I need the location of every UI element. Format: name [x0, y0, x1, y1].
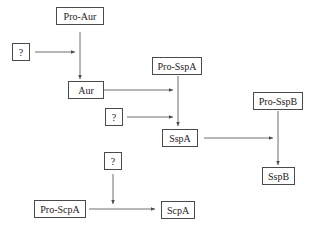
node-pro-aur: Pro-Aur — [56, 7, 104, 25]
node-sspa: SspA — [162, 129, 198, 147]
node-unknown-3: ? — [104, 152, 122, 170]
node-scpa: ScpA — [161, 201, 195, 219]
node-pro-sspb: Pro-SspB — [253, 92, 303, 110]
node-pro-sspa: Pro-SspA — [152, 57, 202, 75]
node-unknown-2: ? — [105, 108, 123, 126]
node-unknown-1: ? — [12, 43, 30, 61]
node-pro-scpa: Pro-ScpA — [34, 200, 86, 218]
node-sspb: SspB — [262, 167, 295, 185]
edges-layer — [0, 0, 314, 233]
node-aur: Aur — [68, 81, 104, 99]
